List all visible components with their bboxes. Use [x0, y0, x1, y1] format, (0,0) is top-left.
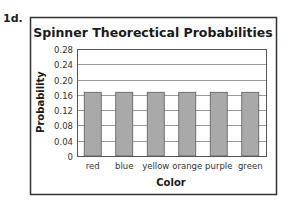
x-tick-label: purple	[205, 161, 232, 171]
chart-title: Spinner Theorectical Probabilities	[33, 25, 273, 40]
y-tick-label: 0.08	[54, 121, 73, 131]
bar-green	[242, 92, 259, 156]
x-axis-title: Color	[156, 177, 186, 188]
x-tick-label: red	[86, 161, 100, 171]
bar-red	[84, 92, 101, 156]
y-tick-label: 0.28	[54, 45, 73, 55]
bar-yellow	[147, 92, 164, 156]
y-tick-label: 0.12	[54, 106, 73, 116]
y-tick-label: 0.16	[54, 91, 73, 101]
y-tick-label: 0.24	[54, 60, 73, 70]
x-tick-label: green	[238, 161, 263, 171]
bar-purple	[210, 92, 227, 156]
x-tick-label: blue	[115, 161, 133, 171]
y-tick-label: 0.20	[54, 76, 73, 86]
y-tick-label: 0	[68, 152, 73, 162]
bar-orange	[179, 92, 196, 156]
x-tick-label: yellow	[142, 161, 169, 171]
y-tick-label: 0.04	[54, 137, 73, 147]
x-tick-label: orange	[172, 161, 202, 171]
bar-blue	[116, 92, 133, 156]
y-axis-title: Probability	[35, 71, 46, 133]
bar-chart: Spinner Theorectical Probabilities 00.04…	[0, 0, 289, 204]
